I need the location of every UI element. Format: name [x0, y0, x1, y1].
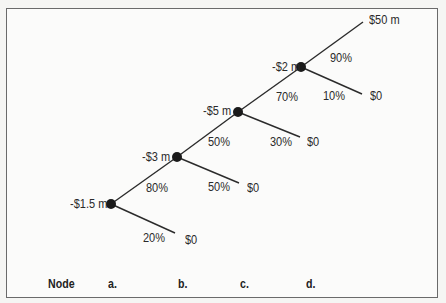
final-success-value: $50 m — [369, 14, 400, 27]
footer-node-b: b. — [178, 278, 187, 291]
footer-node-d: d. — [306, 278, 315, 291]
edge-a-fail — [111, 204, 175, 233]
footer-node-c: c. — [240, 278, 249, 291]
tree-lines — [0, 0, 446, 303]
node-b-cost: -$3 m — [142, 151, 170, 164]
node-c-success-prob: 70% — [276, 91, 298, 104]
node-c-dot — [233, 107, 243, 117]
edge-c-fail — [238, 112, 300, 137]
footer-node-a: a. — [108, 278, 117, 291]
node-c-fail-prob: 30% — [270, 136, 292, 149]
node-d-fail-prob: 10% — [323, 90, 345, 103]
node-c-fail-value: $0 — [307, 136, 319, 149]
node-d-cost: -$2 m — [272, 61, 300, 74]
node-b-fail-value: $0 — [247, 182, 259, 195]
footer-node-label: Node — [48, 278, 75, 291]
node-b-dot — [172, 152, 182, 162]
node-c-cost: -$5 m — [203, 105, 231, 118]
node-d-fail-value: $0 — [370, 90, 382, 103]
node-a-cost: -$1.5 m — [70, 198, 107, 211]
node-a-dot — [106, 199, 116, 209]
node-a-success-prob: 80% — [146, 182, 168, 195]
node-d-success-prob: 90% — [330, 52, 352, 65]
node-a-fail-value: $0 — [185, 234, 197, 247]
node-b-fail-prob: 50% — [208, 181, 230, 194]
node-a-fail-prob: 20% — [143, 232, 165, 245]
node-b-success-prob: 50% — [208, 136, 230, 149]
